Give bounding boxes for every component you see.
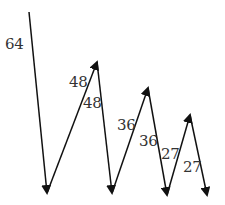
arrow-1: [29, 12, 47, 193]
arrow-label-5: 36: [139, 134, 158, 149]
arrow-label-1: 64: [5, 37, 24, 52]
arrow-7: [190, 115, 207, 195]
arrow-label-2: 48: [69, 75, 88, 90]
arrow-label-4: 36: [117, 118, 136, 133]
arrow-label-7: 27: [183, 160, 202, 175]
arrow-label-3: 48: [83, 96, 102, 111]
arrow-label-6: 27: [161, 147, 180, 162]
arrow-layer: [29, 12, 207, 195]
arrow-3: [97, 62, 112, 193]
